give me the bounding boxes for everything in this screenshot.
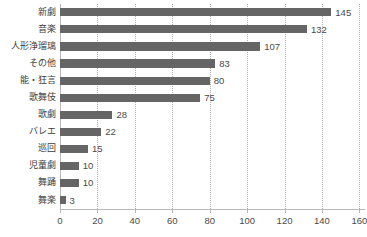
- bar-value-label: 22: [105, 125, 116, 138]
- bar-value-label: 132: [311, 23, 327, 36]
- bar-row: 107: [60, 38, 365, 55]
- bar-row: 145: [60, 4, 365, 21]
- category-label: 歌舞伎: [0, 91, 56, 104]
- x-axis-tick: [210, 209, 211, 213]
- bar: [60, 179, 79, 187]
- x-axis-tick: [60, 209, 61, 213]
- category-label: 歌劇: [0, 108, 56, 121]
- category-label: 人形浄瑠璃: [0, 40, 56, 53]
- category-label: 新劇: [0, 6, 56, 19]
- bar: [60, 42, 260, 50]
- bar: [60, 196, 66, 204]
- bar-row: 22: [60, 124, 365, 141]
- bar-value-label: 28: [116, 108, 127, 121]
- x-axis-tick-label: 100: [239, 214, 255, 227]
- x-axis-tick: [135, 209, 136, 213]
- bar-row: 10: [60, 158, 365, 175]
- bar: [60, 111, 112, 119]
- bar-row: 10: [60, 175, 365, 192]
- x-axis-tick-label: 20: [92, 214, 103, 227]
- category-label: 音楽: [0, 23, 56, 36]
- plot-area: 14513210783807528221510103: [60, 4, 365, 209]
- bar-value-label: 80: [214, 74, 225, 87]
- category-label: その他: [0, 57, 56, 70]
- bar: [60, 59, 215, 67]
- bar-row: 3: [60, 192, 365, 209]
- category-label: バレエ: [0, 125, 56, 138]
- x-axis-tick-label: 40: [130, 214, 141, 227]
- category-label: 舞楽: [0, 194, 56, 207]
- category-label: 能・狂言: [0, 74, 56, 87]
- x-axis-tick: [285, 209, 286, 213]
- bar-value-label: 10: [83, 159, 94, 172]
- x-axis-tick-label: 80: [204, 214, 215, 227]
- bar-value-label: 75: [204, 91, 215, 104]
- category-label: 舞踊: [0, 176, 56, 189]
- x-axis-tick: [247, 209, 248, 213]
- x-axis-tick-label: 0: [57, 214, 62, 227]
- x-axis-tick-label: 160: [351, 214, 367, 227]
- bar-row: 28: [60, 107, 365, 124]
- bar: [60, 94, 200, 102]
- category-label: 巡回: [0, 142, 56, 155]
- bar-value-label: 15: [92, 142, 103, 155]
- bar-value-label: 10: [83, 176, 94, 189]
- bar-value-label: 3: [70, 194, 75, 207]
- x-axis-tick: [97, 209, 98, 213]
- x-axis-tick: [322, 209, 323, 213]
- bar-row: 132: [60, 21, 365, 38]
- bar-rows: 14513210783807528221510103: [60, 4, 365, 209]
- bar: [60, 25, 307, 33]
- x-axis-tick-label: 120: [277, 214, 293, 227]
- bar-value-label: 83: [219, 57, 230, 70]
- bar-value-label: 107: [264, 40, 280, 53]
- bar-row: 15: [60, 141, 365, 158]
- x-axis-tick-label: 60: [167, 214, 178, 227]
- x-axis-tick-label: 140: [314, 214, 330, 227]
- bar: [60, 8, 331, 16]
- bar-value-label: 145: [335, 6, 351, 19]
- bar: [60, 77, 210, 85]
- category-axis-labels: 新劇音楽人形浄瑠璃その他能・狂言歌舞伎歌劇バレエ巡回児童劇舞踊舞楽: [0, 4, 56, 209]
- bar-row: 83: [60, 55, 365, 72]
- bar-row: 80: [60, 72, 365, 89]
- bar: [60, 145, 88, 153]
- x-axis-tick: [172, 209, 173, 213]
- bar-row: 75: [60, 89, 365, 106]
- bar: [60, 162, 79, 170]
- category-label: 児童劇: [0, 159, 56, 172]
- bar: [60, 128, 101, 136]
- x-axis-tick: [359, 209, 360, 213]
